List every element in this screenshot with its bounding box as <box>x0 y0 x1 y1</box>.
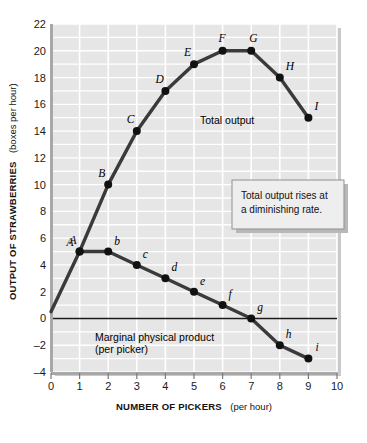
y-axis-title-main: OUTPUT OF STRAWBERRIES <box>7 162 18 300</box>
point-label-B: B <box>98 167 105 179</box>
point-label-E: E <box>183 46 191 58</box>
x-tick-label: 5 <box>191 380 197 392</box>
point-label-c: c <box>143 248 148 260</box>
point-label-G: G <box>249 32 258 44</box>
data-point-marker <box>304 355 312 363</box>
y-tick-label: 12 <box>34 152 46 164</box>
chart-figure: 2220181614121086420–2–4 012345678910 ABC… <box>0 0 367 443</box>
point-label-A: A <box>66 236 75 248</box>
data-point-marker <box>161 87 169 95</box>
y-tick-label: 14 <box>34 125 46 137</box>
x-axis-title-sub: (per hour) <box>230 401 272 412</box>
callout-line-2: a diminishing rate. <box>241 204 322 215</box>
point-label-d: d <box>171 261 177 273</box>
x-tick-label: 3 <box>134 380 140 392</box>
point-label-e: e <box>200 275 205 287</box>
data-point-marker <box>190 60 198 68</box>
y-tick-label: –4 <box>34 366 46 378</box>
y-tick-label: 4 <box>40 259 46 271</box>
y-tick-label: 18 <box>34 72 46 84</box>
data-point-marker <box>219 47 227 55</box>
x-tick-label: 9 <box>305 380 311 392</box>
point-label-D: D <box>154 73 164 85</box>
data-point-marker <box>276 74 284 82</box>
point-label-C: C <box>127 113 135 125</box>
series-label-marginal-physical-product-sub: (per picker) <box>95 343 148 355</box>
x-axis-title-main: NUMBER OF PICKERS <box>116 401 222 412</box>
point-label-g: g <box>257 301 263 314</box>
y-tick-label: –2 <box>34 339 46 351</box>
y-tick-label: 8 <box>40 205 46 217</box>
y-tick-label: 16 <box>34 98 46 110</box>
y-tick-label: 10 <box>34 179 46 191</box>
data-point-marker <box>161 274 169 282</box>
y-tick-label: 20 <box>34 45 46 57</box>
callout-annotation: Total output rises at a diminishing rate… <box>232 180 348 233</box>
x-tick-label: 7 <box>248 380 254 392</box>
point-label-h: h <box>286 328 292 340</box>
point-label-i: i <box>315 341 318 353</box>
x-tick-label: 6 <box>220 380 226 392</box>
data-point-marker <box>133 261 141 269</box>
production-function-chart: 2220181614121086420–2–4 012345678910 ABC… <box>0 0 367 443</box>
y-tick-label: 6 <box>40 232 46 244</box>
data-point-marker <box>247 314 255 322</box>
callout-line-1: Total output rises at <box>241 190 328 201</box>
x-tick-label: 1 <box>77 380 83 392</box>
x-tick-label: 0 <box>48 380 54 392</box>
x-tick-label: 8 <box>277 380 283 392</box>
series-label-marginal-physical-product: Marginal physical product <box>95 331 214 343</box>
point-label-H: H <box>285 60 295 72</box>
data-point-marker <box>104 248 112 256</box>
data-point-marker <box>104 181 112 189</box>
data-point-marker <box>133 127 141 135</box>
y-tick-label: 2 <box>40 286 46 298</box>
x-tick-label: 10 <box>331 380 343 392</box>
data-point-marker <box>276 341 284 349</box>
data-point-marker <box>190 288 198 296</box>
x-tick-label: 4 <box>162 380 168 392</box>
y-tick-label: 22 <box>34 18 46 30</box>
y-axis-title-sub: (boxes per hour) <box>7 83 18 153</box>
data-point-marker <box>76 248 84 256</box>
point-label-b: b <box>114 235 120 247</box>
data-point-marker <box>304 114 312 122</box>
x-tick-label: 2 <box>105 380 111 392</box>
data-point-marker <box>219 301 227 309</box>
point-label-F: F <box>218 32 227 44</box>
data-point-marker <box>247 47 255 55</box>
y-tick-label: 0 <box>40 312 46 324</box>
series-label-total-output: Total output <box>200 114 254 126</box>
